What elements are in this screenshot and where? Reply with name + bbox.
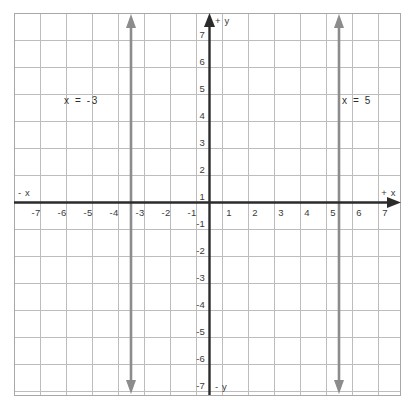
y-tick-label: -1 — [196, 218, 205, 229]
series-label-x-5: x = 5 — [342, 95, 372, 106]
x-tick-label: -5 — [84, 207, 93, 218]
series-label-x-neg3: x = -3 — [64, 95, 99, 106]
x-tick-label: 6 — [356, 207, 361, 218]
x-tick-label: 1 — [226, 207, 231, 218]
x-tick-label: 7 — [382, 207, 387, 218]
x-axis-negative-label: - x — [18, 187, 30, 198]
y-tick-label: 7 — [200, 29, 205, 40]
y-tick-label: -4 — [196, 299, 205, 310]
y-tick-label: 5 — [200, 83, 205, 94]
y-tick-label: -3 — [196, 272, 205, 283]
coordinate-grid-figure: -7 -6 -5 -4 -3 -2 -1 1 2 3 4 5 6 7 7 6 5… — [0, 0, 414, 414]
x-tick-label: 3 — [278, 207, 283, 218]
y-axis-positive-label: + y — [215, 15, 230, 26]
y-tick-label: -5 — [196, 326, 205, 337]
x-tick-label: 4 — [304, 207, 309, 218]
x-tick-label: 5 — [330, 207, 335, 218]
x-tick-label: -6 — [58, 207, 67, 218]
x-tick-label: -7 — [32, 207, 41, 218]
y-tick-label: -7 — [196, 380, 205, 391]
x-tick-label: -2 — [162, 207, 171, 218]
x-axis-positive-label: + x — [381, 187, 396, 198]
y-tick-label: 4 — [200, 110, 205, 121]
y-tick-label: 3 — [200, 137, 205, 148]
graph-canvas: -7 -6 -5 -4 -3 -2 -1 1 2 3 4 5 6 7 7 6 5… — [0, 0, 414, 414]
y-tick-label: 1 — [200, 191, 205, 202]
x-tick-label: -1 — [188, 207, 197, 218]
y-tick-label: 6 — [200, 56, 205, 67]
x-tick-label: -3 — [136, 207, 145, 218]
y-tick-label: 2 — [200, 164, 205, 175]
x-tick-label: 2 — [252, 207, 257, 218]
y-tick-label: -2 — [196, 245, 205, 256]
y-axis-negative-label: - y — [215, 381, 227, 392]
x-tick-label: -4 — [110, 207, 119, 218]
y-tick-label: -6 — [196, 353, 205, 364]
